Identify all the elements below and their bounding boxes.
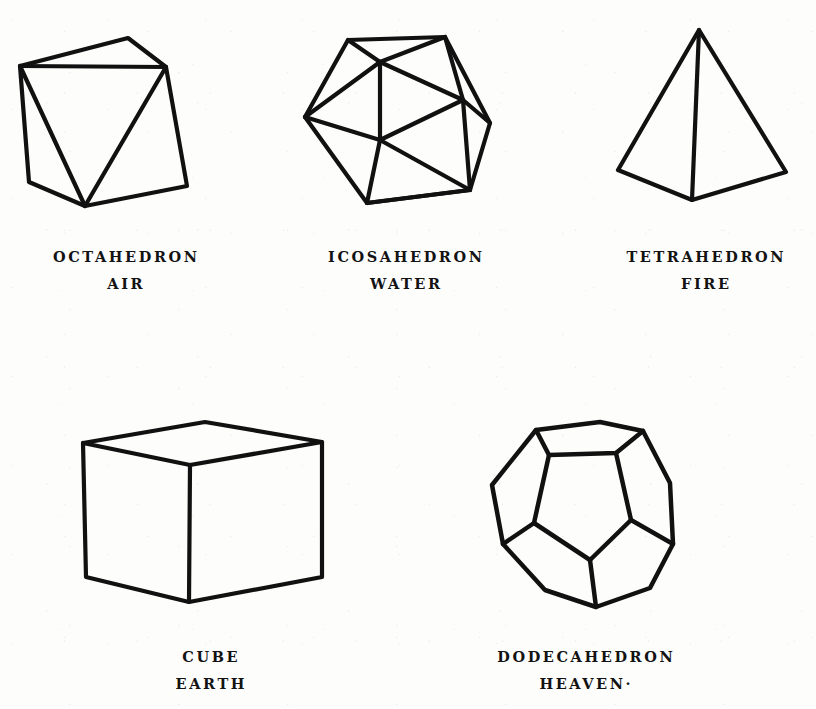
- dodecahedron-edge-right-to-rim: [631, 520, 673, 544]
- tetrahedron-name-label: TETRAHEDRON: [590, 250, 816, 265]
- dodecahedron-edge-right-center: [590, 520, 631, 560]
- octahedron-name-label: OCTAHEDRON: [0, 250, 250, 265]
- icosahedron-element-label: WATER: [290, 277, 520, 292]
- dodecahedron-edge-left-center: [534, 523, 590, 560]
- octahedron-edge-left-diagonal: [20, 66, 85, 206]
- icosahedron-edge-br-center: [380, 140, 470, 190]
- icosahedron-edge-left-top: [305, 62, 380, 117]
- icosahedron-edge-tl-top: [348, 40, 380, 62]
- icosahedron-edge-rightmid-top: [380, 62, 463, 100]
- dodecahedron-edge-center-bottom: [590, 560, 596, 607]
- caption-tetrahedron: TETRAHEDRON FIRE: [590, 250, 816, 291]
- icosahedron-edge-rightmid-br: [463, 100, 470, 190]
- figure-octahedron: [0, 0, 230, 230]
- dodecahedron-element-label: HEAVEN·: [455, 677, 715, 692]
- cube-edge-top-right-front: [190, 442, 322, 465]
- dodecahedron-outline: [492, 422, 673, 607]
- cube-element-label: EARTH: [95, 677, 325, 692]
- icosahedron-edge-bottom: [367, 190, 470, 203]
- icosahedron-outline: [305, 37, 490, 203]
- tetrahedron-element-label: FIRE: [590, 277, 816, 292]
- dodecahedron-top-face-rim: [536, 430, 643, 455]
- cube-edge-front-vertical: [189, 465, 190, 602]
- dodecahedron-edge-left-upper: [534, 455, 549, 523]
- octahedron-edge-upper-horizontal: [20, 66, 166, 67]
- dodecahedron-drawing: [462, 400, 712, 640]
- cube-drawing: [40, 400, 370, 630]
- caption-cube: CUBE EARTH: [95, 650, 325, 691]
- icosahedron-edge-bl-center: [367, 140, 380, 203]
- octahedron-edge-right-diagonal: [85, 67, 166, 206]
- tetrahedron-edge-front-vertical: [692, 30, 699, 200]
- octahedron-drawing: [0, 0, 230, 230]
- tetrahedron-outline: [618, 30, 786, 200]
- octahedron-element-label: AIR: [0, 277, 250, 292]
- caption-icosahedron: ICOSAHEDRON WATER: [290, 250, 520, 291]
- caption-octahedron: OCTAHEDRON AIR: [0, 250, 250, 291]
- tetrahedron-drawing: [586, 0, 816, 230]
- figure-cube: [40, 400, 370, 630]
- cube-name-label: CUBE: [95, 650, 325, 665]
- icosahedron-edge-rightmid-center: [380, 100, 463, 140]
- dodecahedron-edge-left-to-rim: [503, 523, 534, 544]
- caption-dodecahedron: DODECAHEDRON HEAVEN·: [455, 650, 715, 691]
- page-canvas: OCTAHEDRON AIR ICOSAHEDRON WATER: [0, 0, 816, 709]
- icosahedron-drawing: [280, 0, 510, 230]
- figure-icosahedron: [280, 0, 510, 230]
- dodecahedron-name-label: DODECAHEDRON: [455, 650, 715, 665]
- figure-dodecahedron: [462, 400, 712, 640]
- icosahedron-name-label: ICOSAHEDRON: [290, 250, 520, 265]
- dodecahedron-edge-right-upper: [616, 453, 631, 520]
- cube-edge-top-left-front: [83, 443, 190, 465]
- figure-tetrahedron: [586, 0, 816, 230]
- icosahedron-edge-left-center: [305, 117, 380, 140]
